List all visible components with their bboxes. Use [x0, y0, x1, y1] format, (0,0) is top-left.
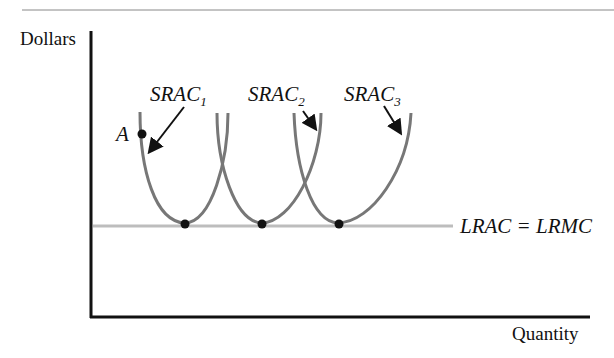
srac2-min-point [258, 220, 267, 229]
srac1-arrow [150, 107, 184, 151]
srac2-curve [217, 113, 321, 223]
srac1-min-point [181, 220, 190, 229]
x-axis-label: Quantity [512, 323, 579, 345]
y-axis-label: Dollars [20, 28, 76, 50]
srac3-min-point [335, 220, 344, 229]
srac1-label: SRAC1 [150, 82, 207, 110]
lrac-label: LRAC = LRMC [460, 214, 592, 239]
srac1-curve [140, 112, 228, 223]
point-a [138, 130, 147, 139]
point-a-label: A [116, 122, 129, 147]
srac3-label: SRAC3 [344, 82, 401, 110]
srac2-label: SRAC2 [248, 82, 305, 110]
chart-canvas [0, 0, 614, 358]
srac2-arrow [303, 111, 315, 128]
